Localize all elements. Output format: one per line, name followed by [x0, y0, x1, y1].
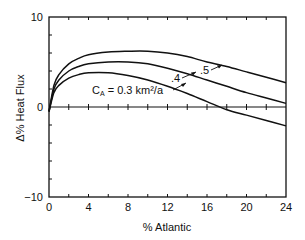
- x-tick-label: 24: [280, 201, 292, 213]
- annotation-0-5: .5: [200, 64, 209, 76]
- y-tick-label: 0: [37, 101, 43, 113]
- curve-series-2: [49, 51, 286, 111]
- curve-series-0: [49, 72, 286, 125]
- y-axis-label: Δ% Heat Flux: [14, 74, 26, 142]
- x-tick-label: 16: [201, 201, 213, 213]
- axis-tick-labels: 04812162024−10010: [24, 11, 292, 213]
- x-tick-label: 0: [46, 201, 52, 213]
- y-tick-label: 10: [31, 11, 43, 23]
- x-tick-label: 4: [85, 201, 91, 213]
- y-tick-label: −10: [24, 191, 43, 203]
- x-tick-label: 20: [240, 201, 252, 213]
- curve-annotations: CA = 0.3 km²/a .4 .5: [92, 64, 222, 97]
- x-tick-label: 12: [161, 201, 173, 213]
- heat-flux-chart: 04812162024−10010 CA = 0.3 km²/a .4 .5 %…: [0, 0, 305, 240]
- annotation-ca-0-3: CA = 0.3 km²/a: [92, 84, 164, 97]
- x-tick-label: 8: [125, 201, 131, 213]
- arrowhead-ca-0-3: [181, 83, 186, 87]
- data-curves: [49, 51, 286, 126]
- annotation-0-4: .4: [171, 72, 180, 84]
- x-axis-label: % Atlantic: [143, 221, 192, 233]
